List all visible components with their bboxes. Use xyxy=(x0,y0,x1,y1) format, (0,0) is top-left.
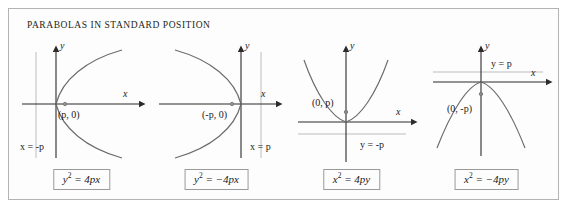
equation-exponent: 2 xyxy=(469,171,473,180)
panel-parabola-right: y x (p, 0) x = -p y2 = 4px xyxy=(14,38,149,196)
directrix-label: x = -p xyxy=(20,141,44,152)
directrix-label: x = p xyxy=(250,141,271,152)
panel-row: y x (p, 0) x = -p y2 = 4px xyxy=(14,38,554,196)
focus-label: (0, -p) xyxy=(447,103,472,115)
x-axis-label: x xyxy=(530,67,536,78)
equation-rhs: = 4py xyxy=(344,173,370,185)
focus-label: (-p, 0) xyxy=(202,109,227,121)
equation-box: x2 = 4py xyxy=(323,169,380,190)
y-axis-label: y xyxy=(349,40,355,51)
page-title: PARABOLAS IN STANDARD POSITION xyxy=(27,20,211,30)
parabolas-figure: PARABOLAS IN STANDARD POSITION xyxy=(0,0,571,212)
equation-exponent: 2 xyxy=(68,171,72,180)
directrix-label: y = p xyxy=(491,58,512,69)
equation-rhs: = −4py xyxy=(475,173,508,185)
y-axis-label: y xyxy=(59,40,65,51)
panel-parabola-down: y x (0, -p) y = p x2 = −4py xyxy=(419,38,554,196)
panel-parabola-up: y x (0, p) y = -p x2 = 4py xyxy=(284,38,419,196)
directrix-label: y = -p xyxy=(360,139,384,150)
x-axis-label: x xyxy=(395,106,401,117)
x-axis-label: x xyxy=(122,88,128,99)
equation-rhs: = −4px xyxy=(205,173,238,185)
equation-box: x2 = −4py xyxy=(454,169,519,190)
panel-parabola-left: y x (-p, 0) x = p y2 = −4px xyxy=(149,38,284,196)
y-axis-label: y xyxy=(484,40,490,51)
equation-exponent: 2 xyxy=(338,171,342,180)
y-axis-label: y xyxy=(244,40,250,51)
equation-box: y2 = 4px xyxy=(53,169,110,190)
equation-rhs: = 4px xyxy=(74,173,100,185)
focus-label: (0, p) xyxy=(312,97,334,109)
focus-label: (p, 0) xyxy=(58,109,80,121)
equation-box: y2 = −4px xyxy=(184,169,249,190)
equation-exponent: 2 xyxy=(199,171,203,180)
x-axis-label: x xyxy=(260,88,266,99)
